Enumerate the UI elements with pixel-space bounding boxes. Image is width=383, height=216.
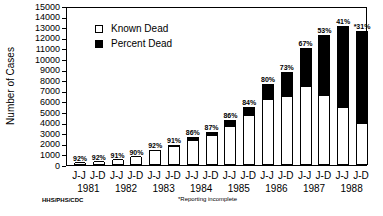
year-label: 1985	[224, 183, 254, 194]
year-label: 1981	[73, 183, 103, 194]
percent-label: 80%	[256, 76, 280, 83]
bar-segment-known-dead	[319, 95, 329, 164]
percent-label: 53%	[312, 27, 336, 34]
bar-j-d-1987	[318, 35, 330, 165]
bar-j-d-1986	[281, 72, 293, 165]
y-tick-label: 7000	[4, 87, 60, 96]
bar-j-j-1984	[187, 137, 199, 165]
bar-segment-known-dead	[188, 140, 198, 164]
bar-j-j-1983	[149, 150, 161, 165]
bar-segment-known-dead	[150, 150, 160, 164]
percent-label: 87%	[200, 124, 224, 131]
y-tick-label: 3000	[4, 130, 60, 139]
bar-segment-known-dead	[131, 156, 141, 164]
percent-label: 91%	[162, 137, 186, 144]
y-tick-label: 1000	[4, 151, 60, 160]
x-tick-label: J-D	[349, 170, 373, 181]
year-label: 1986	[261, 183, 291, 194]
y-tick-label: 8000	[4, 77, 60, 86]
percent-label: 86%	[218, 112, 242, 119]
bar-segment-known-dead	[75, 162, 85, 164]
bar-j-j-1988	[337, 26, 349, 165]
legend-swatch-open-icon	[95, 25, 103, 33]
bar-j-d-1984	[206, 132, 218, 165]
year-label: 1988	[337, 183, 367, 194]
year-label: 1982	[111, 183, 141, 194]
y-tick-label: 4000	[4, 119, 60, 128]
bar-j-d-1983	[168, 145, 180, 165]
y-tick-label: 2000	[4, 140, 60, 149]
bar-segment-known-dead	[225, 126, 235, 164]
legend-item-percent-dead: Percent Dead	[95, 36, 172, 51]
bar-j-d-1985	[243, 107, 255, 165]
percent-label: 84%	[237, 99, 261, 106]
bar-segment-known-dead	[169, 146, 179, 164]
bar-segment-known-dead	[338, 107, 348, 164]
y-tick-label: 14000	[4, 13, 60, 22]
bar-segment-known-dead	[94, 161, 104, 164]
bar-segment-known-dead	[113, 159, 123, 164]
plot-area: Known Dead Percent Dead 92%92%91%90%92%9…	[66, 7, 367, 166]
bar-j-d-1988	[356, 31, 368, 165]
bar-j-d-1982	[130, 157, 142, 165]
y-tick-label: 11000	[4, 45, 60, 54]
y-tick-label: 10000	[4, 56, 60, 65]
y-tick-label: 13000	[4, 24, 60, 33]
y-tick-label: 0	[4, 162, 60, 171]
y-tick-label: 15000	[4, 3, 60, 12]
legend-label: Known Dead	[111, 23, 168, 34]
bar-j-d-1981	[93, 162, 105, 165]
bar-segment-known-dead	[263, 99, 273, 164]
bar-segment-known-dead	[207, 135, 217, 164]
bar-segment-known-dead	[301, 86, 311, 164]
y-tick-label: 5000	[4, 109, 60, 118]
source-note: HHS/PHS/CDC	[42, 197, 83, 203]
bar-segment-known-dead	[357, 123, 367, 164]
footnote: *Reporting incomplete	[178, 196, 237, 202]
legend-label: Percent Dead	[111, 38, 172, 49]
percent-label: 90%	[124, 149, 148, 156]
y-tick-label: 6000	[4, 98, 60, 107]
bar-j-j-1982	[112, 160, 124, 165]
bar-segment-known-dead	[244, 115, 254, 164]
bar-j-j-1986	[262, 84, 274, 165]
percent-label: *31%	[350, 23, 374, 30]
bar-j-j-1981	[74, 163, 86, 165]
legend-item-known-dead: Known Dead	[95, 21, 172, 36]
year-label: 1984	[186, 183, 216, 194]
bar-j-j-1985	[224, 120, 236, 165]
y-tick-mark	[62, 166, 66, 167]
legend-swatch-filled-icon	[95, 40, 103, 48]
bar-j-j-1987	[300, 48, 312, 165]
percent-label: 73%	[275, 64, 299, 71]
y-tick-label: 9000	[4, 66, 60, 75]
percent-label: 67%	[294, 40, 318, 47]
year-label: 1987	[299, 183, 329, 194]
year-label: 1983	[149, 183, 179, 194]
bar-segment-known-dead	[282, 96, 292, 164]
legend: Known Dead Percent Dead	[95, 21, 172, 51]
y-tick-label: 12000	[4, 34, 60, 43]
